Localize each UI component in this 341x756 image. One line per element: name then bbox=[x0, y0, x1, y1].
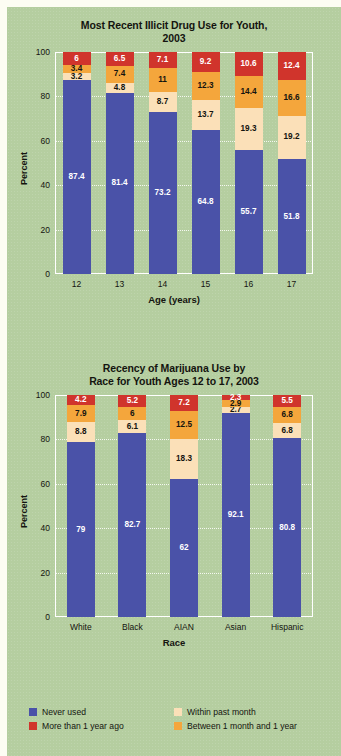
bar-segment: 7.9 bbox=[67, 405, 95, 423]
segment-value-label: 7.1 bbox=[157, 52, 168, 68]
bar-white: 798.87.94.2 bbox=[67, 395, 95, 617]
y-axis-label: Percent bbox=[19, 495, 29, 528]
y-axis-tick-label: 20 bbox=[24, 225, 50, 235]
segment-value-label: 19.2 bbox=[284, 116, 300, 159]
bar-17: 51.819.216.612.4 bbox=[278, 52, 306, 274]
bar-segment: 8.7 bbox=[149, 92, 177, 111]
segment-value-label: 4.8 bbox=[114, 83, 125, 94]
segment-value-label: 12.5 bbox=[176, 411, 192, 439]
segment-value-label: 18.3 bbox=[176, 439, 192, 480]
segment-value-label: 7.2 bbox=[178, 395, 189, 411]
bar-asian: 92.12.72.92.3 bbox=[222, 395, 250, 617]
segment-value-label: 6.8 bbox=[281, 407, 292, 422]
bar-segment: 6 bbox=[63, 52, 91, 65]
bar-segment: 92.1 bbox=[222, 413, 250, 617]
y-axis-label: Percent bbox=[19, 152, 29, 185]
segment-value-label: 80.8 bbox=[279, 438, 295, 558]
legend-item-never-used: Never used bbox=[29, 707, 174, 717]
bar-segment: 8.8 bbox=[67, 422, 95, 442]
bar-segment: 7.2 bbox=[170, 395, 198, 411]
segment-value-label: 3.4 bbox=[71, 65, 82, 73]
bar-segment: 64.8 bbox=[192, 130, 220, 274]
segment-value-label: 11 bbox=[158, 68, 167, 92]
segment-value-label: 8.7 bbox=[157, 92, 168, 111]
segment-value-label: 19.3 bbox=[241, 108, 257, 151]
segment-value-label: 6 bbox=[74, 52, 79, 65]
bar-segment: 5.2 bbox=[118, 395, 146, 407]
segment-value-label: 87.4 bbox=[69, 80, 85, 210]
x-axis-tick-label: AIAN bbox=[158, 622, 210, 632]
chart-title: Recency of Marijuana Use by Race for You… bbox=[7, 362, 341, 388]
segment-value-label: 55.7 bbox=[241, 150, 257, 233]
segment-value-label: 82.7 bbox=[124, 433, 140, 556]
bar-segment: 18.3 bbox=[170, 439, 198, 480]
x-axis-tick-label: Hispanic bbox=[261, 622, 313, 632]
y-axis-tick-label: 60 bbox=[24, 136, 50, 146]
bar-segment: 16.6 bbox=[278, 80, 306, 117]
bar-segment: 51.8 bbox=[278, 159, 306, 274]
bar-segment: 62 bbox=[170, 479, 198, 617]
bar-segment: 6.8 bbox=[273, 407, 301, 422]
legend-item-between-1-month-and-1-year: Between 1 month and 1 year bbox=[174, 721, 319, 731]
bar-16: 55.719.314.410.6 bbox=[235, 52, 263, 274]
segment-value-label: 6.8 bbox=[281, 423, 292, 438]
chart-title-line2: Race for Youth Ages 12 to 17, 2003 bbox=[35, 375, 313, 388]
y-axis-tick-label: 100 bbox=[24, 390, 50, 400]
legend-swatch-icon bbox=[174, 722, 182, 730]
bar-segment: 10.6 bbox=[235, 52, 263, 76]
y-axis-tick-label: 100 bbox=[24, 47, 50, 57]
bar-segment: 6 bbox=[118, 407, 146, 420]
poster-page: Most Recent Illicit Drug Use for Youth, … bbox=[7, 7, 341, 756]
legend-swatch-icon bbox=[29, 722, 37, 730]
x-axis-tick-label: White bbox=[55, 622, 107, 632]
bar-segment: 73.2 bbox=[149, 112, 177, 275]
bar-segment: 2.3 bbox=[222, 395, 250, 400]
x-axis-tick-label: 17 bbox=[270, 279, 313, 289]
gridline bbox=[55, 230, 313, 231]
x-axis-tick-label: Black bbox=[107, 622, 159, 632]
bar-12: 87.43.23.46 bbox=[63, 52, 91, 274]
bar-hispanic: 80.86.86.85.5 bbox=[273, 395, 301, 617]
segment-value-label: 62 bbox=[179, 479, 188, 571]
bar-segment: 12.5 bbox=[170, 411, 198, 439]
bar-segment: 13.7 bbox=[192, 100, 220, 130]
segment-value-label: 92.1 bbox=[228, 413, 244, 550]
bar-segment: 19.2 bbox=[278, 116, 306, 159]
segment-value-label: 2.3 bbox=[230, 394, 241, 401]
legend-label: Between 1 month and 1 year bbox=[187, 721, 297, 731]
segment-value-label: 6.5 bbox=[114, 52, 125, 66]
legend-swatch-icon bbox=[29, 708, 37, 716]
segment-value-label: 64.8 bbox=[198, 130, 214, 226]
y-axis-tick-label: 0 bbox=[24, 612, 50, 622]
chart-legend: Never usedMore than 1 year agoWithin pas… bbox=[7, 707, 341, 735]
bar-segment: 5.5 bbox=[273, 395, 301, 407]
bar-aian: 6218.312.57.2 bbox=[170, 395, 198, 617]
segment-value-label: 10.6 bbox=[241, 52, 257, 76]
chart-title-line1: Most Recent Illicit Drug Use for Youth, bbox=[35, 19, 313, 32]
bar-segment: 79 bbox=[67, 442, 95, 617]
bar-segment: 82.7 bbox=[118, 433, 146, 617]
legend-label: Never used bbox=[42, 707, 86, 717]
bar-segment: 55.7 bbox=[235, 150, 263, 274]
y-axis-tick-label: 0 bbox=[24, 269, 50, 279]
bar-14: 73.28.7117.1 bbox=[149, 52, 177, 274]
segment-value-label: 4.2 bbox=[75, 395, 86, 404]
bar-segment: 6.8 bbox=[273, 423, 301, 438]
x-axis-label: Race bbox=[7, 637, 341, 648]
bar-13: 81.44.87.46.5 bbox=[106, 52, 134, 274]
bar-segment: 6.1 bbox=[118, 420, 146, 434]
bar-segment: 14.4 bbox=[235, 76, 263, 108]
bar-segment: 81.4 bbox=[106, 93, 134, 274]
legend-label: More than 1 year ago bbox=[42, 721, 124, 731]
x-axis-tick-label: 12 bbox=[55, 279, 98, 289]
segment-value-label: 14.4 bbox=[241, 76, 257, 108]
bar-segment: 3.2 bbox=[63, 73, 91, 80]
gridline bbox=[55, 96, 313, 97]
bar-segment: 11 bbox=[149, 68, 177, 92]
gridline bbox=[55, 141, 313, 142]
segment-value-label: 81.4 bbox=[112, 93, 128, 214]
bar-segment: 19.3 bbox=[235, 108, 263, 151]
y-axis-tick-label: 80 bbox=[24, 91, 50, 101]
legend-column-right: Within past monthBetween 1 month and 1 y… bbox=[174, 707, 319, 735]
segment-value-label: 3.2 bbox=[71, 73, 82, 80]
